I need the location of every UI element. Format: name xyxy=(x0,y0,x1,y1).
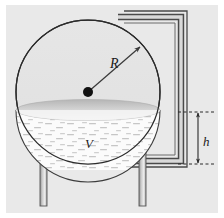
spherical-tank xyxy=(14,20,164,182)
radius-label: R xyxy=(109,56,119,71)
figure-container: R V h xyxy=(0,0,224,218)
spherical-tank-diagram: R V h xyxy=(0,0,224,218)
height-label: h xyxy=(203,134,210,149)
sphere-center-dot xyxy=(83,87,93,97)
